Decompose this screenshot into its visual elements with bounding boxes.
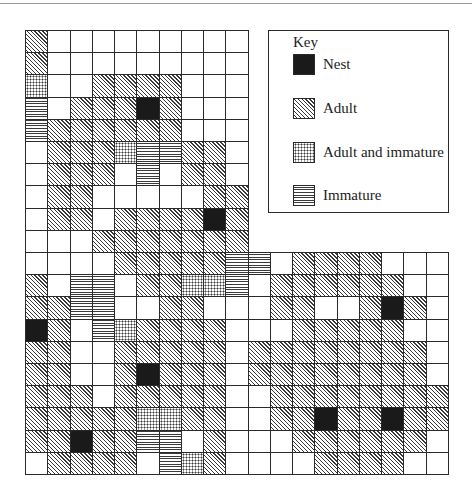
immature-cell [159, 452, 183, 476]
immature-cell [92, 274, 116, 298]
empty-cell [270, 319, 294, 343]
immature-cell [70, 274, 94, 298]
empty-cell [248, 452, 272, 476]
adult-cell [92, 452, 116, 476]
adult-cell [292, 407, 316, 431]
adult-cell [159, 97, 183, 121]
adult-cell [248, 363, 272, 387]
empty-cell [136, 30, 160, 54]
empty-cell [225, 97, 249, 121]
empty-cell [47, 52, 71, 76]
adult-cell [381, 452, 405, 476]
adult-cell [292, 274, 316, 298]
empty-cell [47, 97, 71, 121]
adult-cell [70, 163, 94, 187]
immature-cell [136, 141, 160, 165]
adult-and-immature-cell [114, 141, 138, 165]
adult-cell [314, 252, 338, 276]
adult-cell [403, 407, 427, 431]
empty-cell [47, 230, 71, 254]
adult-cell [92, 407, 116, 431]
empty-cell [136, 452, 160, 476]
empty-cell [159, 30, 183, 54]
empty-cell [270, 452, 294, 476]
empty-cell [225, 341, 249, 365]
adult-cell [381, 385, 405, 409]
adult-cell [203, 452, 227, 476]
adult-cell [114, 97, 138, 121]
adult-cell [403, 385, 427, 409]
adult-cell [270, 341, 294, 365]
empty-cell [70, 319, 94, 343]
adult-cell [25, 52, 49, 76]
empty-cell [426, 319, 450, 343]
immature-cell [92, 296, 116, 320]
adult-cell [403, 296, 427, 320]
empty-cell [47, 74, 71, 98]
empty-cell [47, 274, 71, 298]
adult-cell [270, 363, 294, 387]
empty-cell [248, 319, 272, 343]
adult-cell [92, 163, 116, 187]
adult-cell [92, 141, 116, 165]
adult-cell [359, 407, 383, 431]
adult-cell [203, 185, 227, 209]
adult-cell [92, 74, 116, 98]
adult-cell [381, 319, 405, 343]
empty-cell [426, 363, 450, 387]
adult-cell [159, 363, 183, 387]
empty-cell [181, 30, 205, 54]
legend-title: Key [293, 34, 318, 51]
adult-cell [403, 430, 427, 454]
adult-cell [92, 119, 116, 143]
adult-cell [47, 208, 71, 232]
adult-cell [47, 185, 71, 209]
adult-cell [181, 230, 205, 254]
adult-cell [225, 185, 249, 209]
adult-cell [114, 74, 138, 98]
immature-cell [248, 252, 272, 276]
adult-cell [270, 385, 294, 409]
empty-cell [337, 296, 361, 320]
nest-cell [381, 296, 405, 320]
adult-cell [70, 208, 94, 232]
immature-cell [136, 430, 160, 454]
empty-cell [114, 185, 138, 209]
adult-cell [92, 97, 116, 121]
adult-cell [181, 407, 205, 431]
legend-item-adult-and-immature: Adult and immature [293, 141, 444, 164]
legend-label: Adult [323, 100, 357, 117]
adult-cell [114, 119, 138, 143]
empty-cell [403, 452, 427, 476]
empty-cell [25, 163, 49, 187]
adult-cell [114, 341, 138, 365]
immature-cell [70, 296, 94, 320]
adult-cell [92, 430, 116, 454]
adult-cell [270, 296, 294, 320]
adult-cell [359, 363, 383, 387]
adult-and-immature-cell [136, 407, 160, 431]
adult-cell [159, 319, 183, 343]
adult-cell [70, 407, 94, 431]
adult-cell [136, 341, 160, 365]
empty-cell [181, 97, 205, 121]
empty-cell [203, 52, 227, 76]
empty-cell [225, 407, 249, 431]
empty-cell [426, 274, 450, 298]
immature-cell [136, 163, 160, 187]
adult-cell [203, 385, 227, 409]
empty-cell [92, 52, 116, 76]
adult-cell [159, 296, 183, 320]
empty-cell [181, 74, 205, 98]
immature-cell [25, 119, 49, 143]
empty-cell [47, 252, 71, 276]
adult-cell [359, 341, 383, 365]
adult-cell [47, 407, 71, 431]
adult-cell [270, 274, 294, 298]
adult-cell [25, 274, 49, 298]
immature-cell [225, 252, 249, 276]
legend-item-nest: Nest [293, 53, 351, 76]
empty-cell [92, 30, 116, 54]
empty-cell [92, 185, 116, 209]
adult-cell [292, 252, 316, 276]
